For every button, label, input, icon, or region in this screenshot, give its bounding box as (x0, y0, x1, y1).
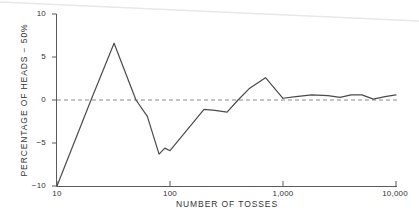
x-axis-ticks (57, 181, 396, 187)
x-tick-label-100: 100 (147, 189, 193, 198)
scan-edge-line (0, 2, 419, 21)
chart-figure: 10 5 0 −5 −10 10 100 1,000 10,000 NUMBER… (0, 0, 419, 215)
y-axis-ticks (52, 14, 57, 186)
x-tick-label-10: 10 (34, 189, 80, 198)
x-axis-title: NUMBER OF TOSSES (57, 199, 397, 209)
chart-plot-area (0, 0, 419, 215)
data-series-line (57, 43, 396, 186)
x-tick-label-10000: 10,000 (372, 189, 418, 198)
y-axis-title: PERCENTAGE OF HEADS − 50% (19, 10, 29, 190)
x-tick-label-1000: 1,000 (260, 189, 306, 198)
